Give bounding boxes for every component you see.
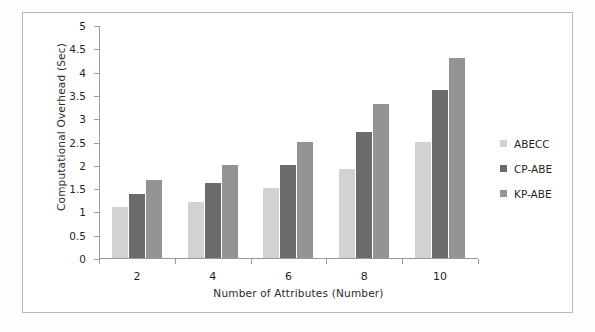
legend-label: CP-ABE [514,163,552,175]
x-axis-tick-label: 2 [133,270,140,283]
y-axis-tick: 4.5 [94,49,99,50]
bar-abecc [188,202,204,258]
y-axis-tick-label: 4.5 [69,43,86,55]
bar-kp-abe [297,142,313,259]
bar-kp-abe [373,104,389,258]
x-axis-title: Number of Attributes (Number) [23,287,574,299]
legend-swatch-icon [500,190,507,197]
y-axis-tick-label: 0.5 [69,230,86,242]
bar-group [251,142,327,259]
x-axis-tick-label: 6 [285,270,292,283]
bar-kp-abe [449,58,465,258]
x-axis-line [99,258,478,259]
y-axis-tick-label: 0 [79,253,86,265]
x-axis-tick [478,259,479,264]
y-axis-tick: 5 [94,26,99,27]
bar-abecc [415,142,431,259]
bar-cp-abe [432,90,448,258]
bar-group [175,165,251,258]
y-axis-tick-label: 2.5 [69,137,86,149]
bar-abecc [339,169,355,258]
legend-item-cp-abe: CP-ABE [500,156,552,181]
x-axis-tick [251,259,252,264]
legend-swatch-icon [500,140,507,147]
y-axis-tick-label: 3 [79,113,86,125]
bar-cp-abe [356,132,372,258]
y-axis-tick: 2.5 [94,143,99,144]
bar-abecc [112,207,128,258]
y-axis-title: Computational Overhead (Sec) [55,27,67,227]
y-axis-tick: 3.5 [94,96,99,97]
y-axis-tick-label: 1 [79,206,86,218]
bar-cp-abe [205,183,221,258]
x-axis-tick-label: 4 [209,270,216,283]
x-axis-tick [402,259,403,264]
legend-swatch-icon [500,165,507,172]
y-axis-tick-label: 5 [79,20,86,32]
chart-legend: ABECCCP-ABEKP-ABE [500,131,552,206]
legend-item-abecc: ABECC [500,131,552,156]
y-axis-tick-label: 1.5 [69,183,86,195]
bar-group [402,58,478,258]
y-axis-tick: 2 [94,166,99,167]
x-axis-tick-label: 8 [361,270,368,283]
scanned-page: Computational Overhead (Sec) 00.511.522.… [0,0,595,332]
legend-item-kp-abe: KP-ABE [500,181,552,206]
chart-frame: Computational Overhead (Sec) 00.511.522.… [22,12,573,313]
y-axis-tick-label: 4 [79,67,86,79]
legend-label: KP-ABE [514,188,552,200]
y-axis-tick-label: 2 [79,160,86,172]
x-axis-tick [99,259,100,264]
x-axis-tick-label: 10 [433,270,447,283]
bar-abecc [263,188,279,258]
bar-group [99,180,175,258]
bar-kp-abe [222,165,238,258]
bar-cp-abe [280,165,296,258]
legend-label: ABECC [514,138,550,150]
x-axis-tick [175,259,176,264]
x-axis-tick [326,259,327,264]
bar-cp-abe [129,194,145,258]
y-axis-tick: 3 [94,119,99,120]
bar-group [326,104,402,258]
bar-kp-abe [146,180,162,258]
y-axis-tick: 4 [94,73,99,74]
plot-area: 00.511.522.533.544.55 246810 [99,26,478,259]
y-axis-tick-label: 3.5 [69,90,86,102]
